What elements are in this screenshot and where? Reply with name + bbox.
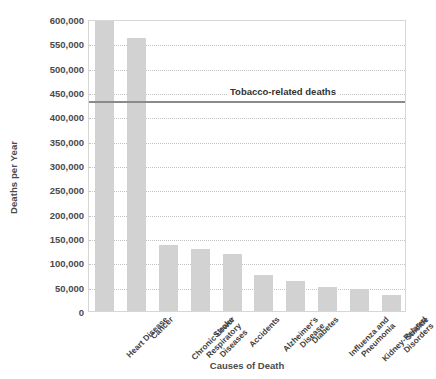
y-axis-tick-label: 550,000 — [22, 39, 84, 50]
y-axis-tick-label: 300,000 — [22, 161, 84, 172]
bar — [127, 38, 146, 311]
y-axis-tick-label: 350,000 — [22, 136, 84, 147]
bar — [286, 281, 305, 311]
y-axis-tick-label: 100,000 — [22, 258, 84, 269]
y-axis-title: Deaths per Year — [8, 118, 19, 238]
plot-area: Tobacco-related deaths — [88, 20, 406, 312]
bar — [191, 249, 210, 311]
y-axis-tick-label: 600,000 — [22, 15, 84, 26]
x-axis-title: Causes of Death — [88, 360, 406, 371]
x-axis-tick-label: Accidents — [248, 315, 282, 349]
y-axis-tick-label: 50,000 — [22, 282, 84, 293]
y-axis-tick-label: 450,000 — [22, 88, 84, 99]
bar — [95, 21, 114, 311]
y-axis-tick-label: 500,000 — [22, 63, 84, 74]
y-axis-tick-label: 250,000 — [22, 185, 84, 196]
bar — [382, 295, 401, 311]
bar — [223, 254, 242, 311]
bar — [159, 245, 178, 311]
y-axis-tick-label: 0 — [22, 307, 84, 318]
y-axis-tick-labels: 050,000100,000150,000200,000250,000300,0… — [22, 20, 84, 312]
x-axis-tick-label-line: Accidents — [248, 315, 282, 349]
bar — [350, 289, 369, 311]
bar — [254, 275, 273, 311]
y-axis-tick-label: 200,000 — [22, 209, 84, 220]
bars-layer — [89, 21, 405, 311]
bar — [318, 287, 337, 311]
tobacco-reference-line — [89, 101, 405, 103]
tobacco-reference-line-label: Tobacco-related deaths — [227, 86, 339, 97]
y-axis-tick-label: 400,000 — [22, 112, 84, 123]
y-axis-tick-label: 150,000 — [22, 234, 84, 245]
